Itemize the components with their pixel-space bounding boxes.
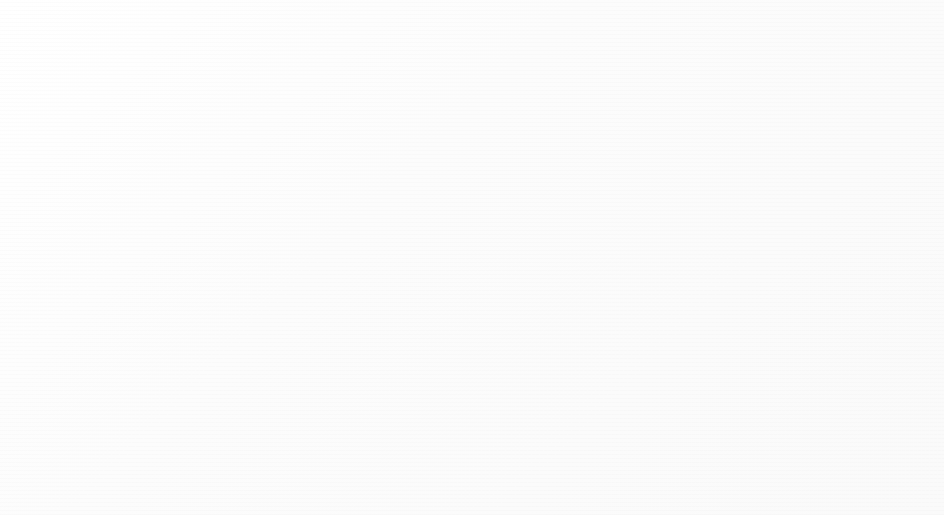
y-axis-title-text: Axis (y) time (seconds) [481, 107, 493, 187]
bar-15m: 540015 [138, 408, 154, 443]
bar-value-label: 3600 [539, 188, 551, 194]
x-axis-tick-label: 10 [98, 222, 104, 228]
bar-10m: 360010 [537, 196, 553, 219]
y-axis-tick-label: 25000 [58, 280, 74, 286]
x-axis-tick-label: 15 [143, 222, 149, 228]
x-axis-tick-label: 15 [587, 446, 593, 452]
y-axis-tick-label: 10000 [58, 151, 74, 157]
y-axis-title-text: Axis (y) time (seconds) [37, 331, 49, 411]
x-axis-title: Axis (x) distance (meters) [77, 457, 351, 470]
y-axis-tick-label: 20000 [58, 312, 74, 318]
y-tickmark [75, 89, 78, 90]
legend-key-no[interactable]: No [359, 359, 370, 364]
legend-key-yes[interactable]: Yes [359, 143, 371, 148]
y-tickmark [75, 315, 78, 316]
chart-title-text: Construction Material: Partition walls [601, 263, 789, 278]
category-separator [613, 283, 614, 443]
y-axis-tick-label: 10000 [502, 151, 518, 157]
legend-key-label: Yes [364, 143, 371, 148]
y-tickmark [519, 57, 522, 58]
y-tickmark [519, 89, 522, 90]
report-page: Test nº1 Construction Material: Glass050… [22, 26, 922, 481]
x-axis-title-text: Axis (x) distance (meters) [610, 233, 706, 246]
category-separator [261, 283, 262, 443]
bar-value-label: 5400 [140, 177, 152, 183]
x-axis-title-text: Axis (x) distance (meters) [610, 457, 706, 470]
bar-10m: 360010 [93, 420, 109, 443]
x-axis-tick-label: 15 [587, 222, 593, 228]
y-tickmark [519, 154, 522, 155]
y-tickmark [75, 347, 78, 348]
legend-keys: NoYes [359, 132, 371, 148]
bar-value-label: 5400 [584, 401, 596, 407]
y-tickmark [519, 315, 522, 316]
y-axis-tick-label: 20000 [502, 312, 518, 318]
bar-20m: 720020 [184, 397, 200, 443]
y-axis-title-text: Axis (y) time (seconds) [481, 331, 493, 411]
chart-title-text: Construction Material: Partition walls [601, 37, 789, 52]
y-tickmark [519, 122, 522, 123]
bar-20m: 720020 [628, 172, 644, 219]
chart-title: Construction Material: Glass [31, 263, 471, 278]
bar-value-label: 7200 [630, 165, 642, 171]
bar-value-label: 21600 [322, 72, 337, 78]
category-separator [306, 283, 307, 443]
legend-key-no[interactable]: No [803, 359, 814, 364]
category-separator [568, 57, 569, 219]
x-axis-tick-label: 30 [280, 222, 286, 228]
legend-key-no[interactable]: No [803, 134, 815, 139]
legend-swatch-no [803, 360, 806, 363]
test-1-badge: Test nº1 [406, 33, 475, 54]
y-axis-tick-label: 5000 [506, 184, 518, 190]
category-separator [613, 57, 614, 219]
category-separator [306, 57, 307, 219]
y-tickmark [75, 443, 78, 444]
y-axis-tick-label: 5000 [62, 184, 74, 190]
y-axis-tick-label: 20000 [502, 86, 518, 92]
legend-swatch-no [803, 134, 806, 137]
bar-value-label: 10800 [230, 366, 245, 372]
bar-35m: 2160035 [321, 79, 337, 219]
y-tickmark [519, 187, 522, 188]
y-axis-tick-label: 5000 [62, 408, 74, 414]
bar-value-label: 10800 [230, 142, 245, 148]
legend-key-yes[interactable]: Yes [803, 143, 815, 148]
chart-legend: NoNo: No Handshake was obtained [803, 357, 911, 373]
bar-30m: 1440030 [719, 351, 735, 443]
legend-swatch-no [359, 360, 362, 363]
legend-key-no[interactable]: No [359, 134, 371, 139]
y-axis-tick-label: 25000 [502, 280, 518, 286]
chart-legend: NoYesNo: No Handshake was obtainedYes: H… [359, 132, 468, 157]
legend-text-box: No: No Handshake was obtained [817, 357, 911, 373]
x-axis-tick-label: 25 [235, 222, 241, 228]
y-tickmark [75, 379, 78, 380]
legend-entry-no: No: No Handshake was obtained [824, 135, 906, 144]
y-axis-title: Axis (y) time (seconds) [37, 107, 49, 187]
y-axis-tick-label: 15000 [502, 344, 518, 350]
x-axis-tick-label: 10 [542, 446, 548, 452]
legend-entry-no: No: No Handshake was obtained [379, 360, 461, 369]
x-axis-tick-label: 20 [189, 446, 195, 452]
chart-legend: NoNo: No Handshake was obtained [359, 357, 467, 373]
category-separator [750, 57, 751, 219]
legend-keys: No [803, 357, 814, 364]
test-2-row: Test nº2 Construction Material: Glass050… [23, 255, 923, 480]
legend-key-label: No [808, 359, 814, 364]
y-tickmark [519, 379, 522, 380]
y-axis-tick-label: 15000 [502, 119, 518, 125]
y-tickmark [75, 122, 78, 123]
y-axis-tick-label: 0 [515, 216, 518, 222]
y-tickmark [75, 57, 78, 58]
bar-15m: 540015 [582, 184, 598, 219]
y-axis-tick-label: 10000 [502, 376, 518, 382]
chart-title: Construction Material: Partition walls [475, 263, 915, 278]
y-tickmark [519, 347, 522, 348]
y-axis-tick-label: 0 [515, 440, 518, 446]
y-axis-title: Axis (y) time (seconds) [481, 331, 493, 411]
bar-25m: 1080025 [230, 149, 246, 219]
bar-value-label: 14400 [276, 118, 291, 124]
bar-35m: 2160035 [765, 79, 781, 219]
x-axis-tick-label: 30 [724, 222, 730, 228]
bar-25m: 1080025 [230, 374, 246, 443]
y-tickmark [519, 219, 522, 220]
